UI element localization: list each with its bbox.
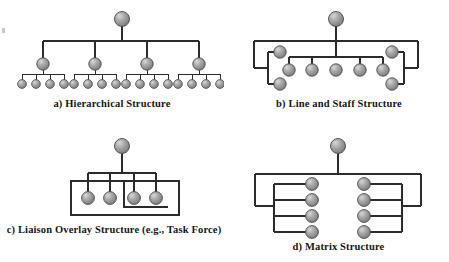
node-line (283, 64, 295, 76)
figure-root: a) Hierarchical Structure (0, 0, 449, 262)
node-leaf (112, 80, 121, 89)
hierarchical-graph (0, 0, 224, 100)
node-leaf (136, 80, 145, 89)
node-unit (128, 192, 141, 205)
node-matrix-left (306, 210, 319, 223)
node-leaf (60, 80, 69, 89)
node-matrix-right (358, 210, 371, 223)
node-leaf (164, 80, 173, 89)
node-leaf (70, 80, 79, 89)
caption-line-and-staff: b) Line and Staff Structure (232, 98, 446, 109)
node-leaf (98, 80, 107, 89)
node-line (306, 64, 318, 76)
node-root (329, 12, 344, 27)
node-matrix-right (358, 226, 371, 239)
caption-matrix: d) Matrix Structure (228, 241, 449, 252)
node-line (330, 64, 342, 76)
panel-hierarchical: a) Hierarchical Structure (0, 0, 224, 118)
node-mid (89, 58, 101, 70)
panel-matrix: d) Matrix Structure (228, 128, 449, 262)
node-line (377, 64, 389, 76)
node-leaf (18, 80, 27, 89)
node-leaf (46, 80, 55, 89)
panel-line-and-staff: b) Line and Staff Structure (232, 0, 446, 118)
node-mid (193, 58, 205, 70)
node-matrix-right (358, 178, 371, 191)
node-matrix-left (306, 194, 319, 207)
node-root (115, 139, 130, 154)
node-staff (386, 78, 398, 90)
node-unit (150, 192, 163, 205)
node-root (115, 12, 130, 27)
node-matrix-right (358, 194, 371, 207)
node-leaf (32, 80, 41, 89)
node-leaf (174, 80, 183, 89)
line-and-staff-graph (232, 0, 446, 100)
node-leaf (84, 80, 93, 89)
panel-liaison-overlay: c) Liaison Overlay Structure (e.g., Task… (0, 128, 228, 258)
node-staff (274, 78, 286, 90)
node-leaf (188, 80, 197, 89)
node-leaf (216, 80, 224, 89)
node-staff (386, 46, 398, 58)
liaison-overlay-graph (0, 128, 228, 228)
node-leaf (150, 80, 159, 89)
caption-hierarchical: a) Hierarchical Structure (0, 98, 224, 109)
node-staff (274, 46, 286, 58)
node-root (331, 139, 346, 154)
node-matrix-left (306, 178, 319, 191)
node-matrix-left (306, 226, 319, 239)
node-leaf (122, 80, 131, 89)
node-unit (104, 192, 117, 205)
node-mid (37, 58, 49, 70)
node-line (354, 64, 366, 76)
caption-liaison-overlay: c) Liaison Overlay Structure (e.g., Task… (0, 224, 228, 235)
node-unit (82, 192, 95, 205)
matrix-graph (228, 128, 449, 243)
node-leaf (202, 80, 211, 89)
node-mid (141, 58, 153, 70)
